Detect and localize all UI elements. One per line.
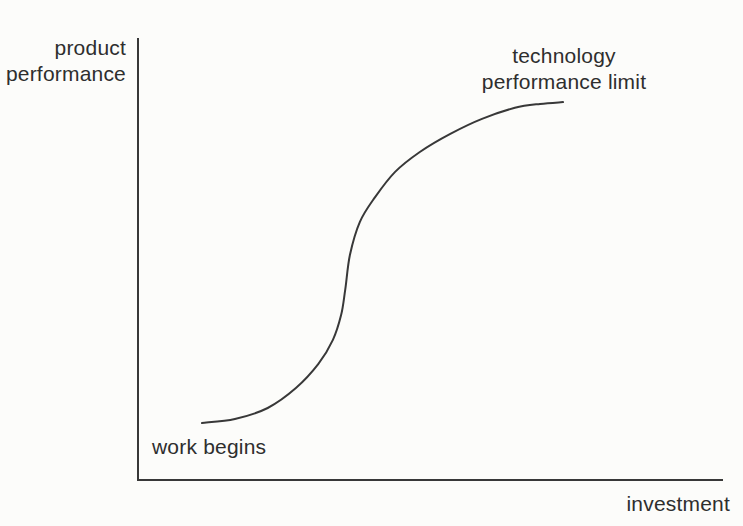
- work-begins-annotation: work begins: [152, 434, 266, 460]
- limit-annotation-line1: technology: [434, 43, 694, 69]
- y-axis-label-line2: performance: [0, 61, 126, 87]
- x-axis-label: investment: [626, 491, 730, 517]
- s-curve-figure: product performance technology performan…: [0, 0, 743, 526]
- s-curve-path: [202, 102, 563, 423]
- y-axis-label: product performance: [0, 35, 126, 87]
- limit-annotation-line2: performance limit: [434, 69, 694, 95]
- technology-performance-limit-annotation: technology performance limit: [434, 43, 694, 95]
- y-axis-label-line1: product: [0, 35, 126, 61]
